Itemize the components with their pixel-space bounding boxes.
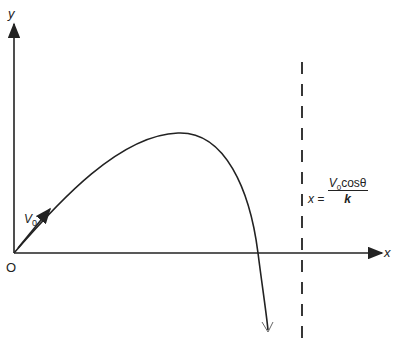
x-axis-label: x [384, 245, 391, 260]
formula-denominator: k [328, 192, 368, 206]
y-axis-label: y [8, 6, 15, 21]
asymptote-formula: x = V0cosθ k [308, 176, 368, 206]
velocity-subscript: 0 [32, 218, 37, 228]
numerator-rest: cosθ [341, 176, 366, 190]
formula-numerator: V0cosθ [328, 176, 368, 191]
projectile-diagram: y x O V0 x = V0cosθ k [0, 0, 395, 351]
formula-lhs: x = [308, 192, 324, 206]
trajectory-curve [14, 133, 268, 330]
velocity-symbol: V [24, 212, 32, 226]
origin-label: O [6, 260, 16, 275]
velocity-label: V0 [24, 212, 37, 228]
formula-fraction: V0cosθ k [328, 176, 368, 206]
numerator-symbol: V [329, 176, 337, 190]
